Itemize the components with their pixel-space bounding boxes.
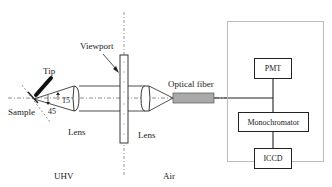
- iccd-box: ICCD: [254, 148, 292, 169]
- optical-setup-diagram: PMT Monochromator ICCD Viewport Tip Samp…: [0, 0, 332, 187]
- right-lens: [141, 86, 150, 111]
- monochromator-box: Monochromator: [238, 112, 309, 132]
- optical-fiber: [173, 93, 214, 103]
- detection-enclosure: [227, 21, 324, 162]
- angle-15-label: 15: [62, 97, 70, 105]
- air-label: Air: [163, 172, 175, 181]
- tip-label: Tip: [43, 67, 55, 76]
- sample-label: Sample: [8, 108, 35, 117]
- right-lens-label: Lens: [138, 131, 156, 140]
- pmt-box: PMT: [254, 58, 292, 79]
- viewport-window: [120, 55, 128, 143]
- pmt-label: PMT: [265, 64, 281, 73]
- iccd-label: ICCD: [263, 154, 282, 163]
- tip: [36, 78, 51, 95]
- uhv-label: UHV: [54, 172, 74, 181]
- left-lens-label: Lens: [68, 128, 86, 137]
- angle-45-label: 45: [48, 108, 56, 116]
- viewport-label: Viewport: [80, 42, 113, 51]
- left-lens: [73, 86, 79, 111]
- monochromator-label: Monochromator: [248, 118, 300, 127]
- optical-fiber-label: Optical fiber: [168, 80, 214, 89]
